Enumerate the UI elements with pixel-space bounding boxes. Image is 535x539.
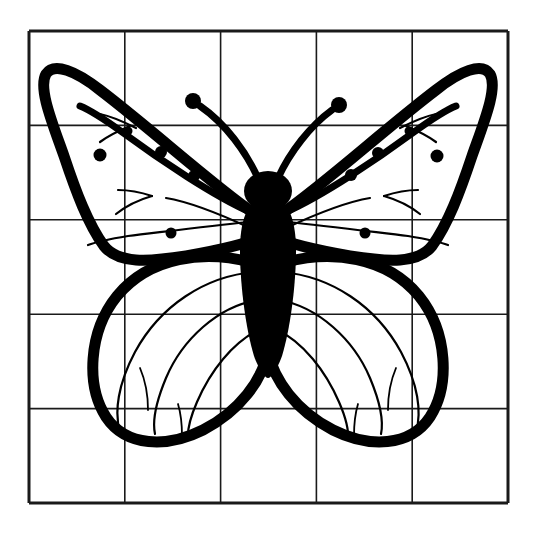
wing-spot — [155, 146, 167, 158]
wing-spot — [345, 169, 357, 181]
wing-spot — [431, 150, 444, 163]
wing-spot — [94, 149, 107, 162]
antenna-right-knob — [331, 97, 347, 113]
wing-spot — [360, 228, 371, 239]
butterfly-figure — [0, 0, 535, 539]
wing-spot — [166, 228, 177, 239]
wing-spot — [188, 170, 200, 182]
head — [244, 171, 292, 211]
wing-spot — [405, 127, 414, 136]
wing-spot — [124, 127, 133, 136]
drawing-canvas — [0, 0, 535, 539]
wing-spot — [372, 147, 384, 159]
antenna-left-knob — [185, 93, 201, 109]
